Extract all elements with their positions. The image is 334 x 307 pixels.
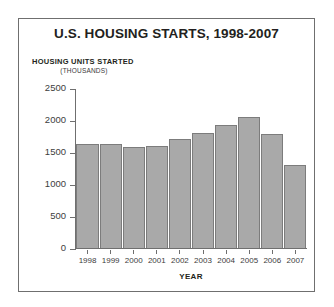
x-axis-tick-label: 1999 xyxy=(100,256,122,265)
x-axis-label: YEAR xyxy=(75,272,307,281)
x-axis-tick-label: 2000 xyxy=(123,256,145,265)
x-axis-tick-slot xyxy=(100,250,122,254)
x-axis-tick-label: 2004 xyxy=(215,256,237,265)
x-axis-tick-mark xyxy=(179,250,180,254)
bar-slot xyxy=(238,88,260,248)
bar-slot xyxy=(261,88,283,248)
y-axis-label-units: (THOUSANDS) xyxy=(32,67,136,74)
y-axis-tick-label: 2500 xyxy=(45,82,66,93)
y-axis-tick-label: 2000 xyxy=(45,114,66,125)
plot-area: 05001000150020002500 xyxy=(75,89,307,249)
bar-slot xyxy=(215,88,237,248)
bar-slot xyxy=(284,88,306,248)
x-axis-tick-label: 2006 xyxy=(261,256,283,265)
bar-slot xyxy=(100,88,122,248)
bar[interactable] xyxy=(284,165,306,248)
y-axis-tick-label: 1500 xyxy=(45,146,66,157)
x-axis-tick-mark xyxy=(295,250,296,254)
x-axis-tick-slot xyxy=(192,250,214,254)
bar-slot xyxy=(76,88,98,248)
x-axis-tick-labels: 1998199920002001200220032004200520062007 xyxy=(75,256,307,268)
x-axis-tick-slot xyxy=(238,250,260,254)
x-axis-tick-label: 2003 xyxy=(192,256,214,265)
bar[interactable] xyxy=(238,117,260,248)
bar-slot xyxy=(123,88,145,248)
page-top-margin xyxy=(0,0,334,8)
y-axis-tick-label: 1000 xyxy=(45,178,66,189)
x-axis-tick-label: 2007 xyxy=(284,256,306,265)
bar[interactable] xyxy=(169,139,191,248)
x-axis-tick-label: 2005 xyxy=(238,256,260,265)
x-axis-tick-mark xyxy=(226,250,227,254)
x-axis-tick-slot xyxy=(76,250,98,254)
y-axis-tick-label: 0 xyxy=(61,242,66,253)
x-axis-tick-slot xyxy=(261,250,283,254)
bar[interactable] xyxy=(100,144,122,248)
x-axis-tick-mark xyxy=(156,250,157,254)
bar-series xyxy=(76,88,307,248)
bar-slot xyxy=(169,88,191,248)
y-axis-label: HOUSING UNITS STARTED xyxy=(32,57,202,66)
x-axis-tick-mark xyxy=(133,250,134,254)
bar[interactable] xyxy=(261,134,283,248)
chart-figure: U.S. HOUSING STARTS, 1998-2007 HOUSING U… xyxy=(18,18,315,292)
x-axis-tick-slot xyxy=(284,250,306,254)
y-axis-label-block: HOUSING UNITS STARTED (THOUSANDS) xyxy=(32,57,202,74)
bar[interactable] xyxy=(123,147,145,248)
x-axis-line xyxy=(75,248,307,249)
x-axis-ticks xyxy=(76,250,307,254)
x-axis-tick-label: 1998 xyxy=(76,256,98,265)
chart-title: U.S. HOUSING STARTS, 1998-2007 xyxy=(19,26,314,41)
bar[interactable] xyxy=(146,146,168,248)
x-axis-tick-label: 2002 xyxy=(169,256,191,265)
x-axis-tick-slot xyxy=(146,250,168,254)
x-axis-tick-mark xyxy=(272,250,273,254)
bar-slot xyxy=(146,88,168,248)
x-axis-tick-mark xyxy=(87,250,88,254)
x-axis-tick-mark xyxy=(203,250,204,254)
bar[interactable] xyxy=(76,144,98,248)
x-axis-tick-label: 2001 xyxy=(146,256,168,265)
x-axis-tick-mark xyxy=(110,250,111,254)
bar[interactable] xyxy=(215,125,237,248)
x-axis-tick-slot xyxy=(169,250,191,254)
y-axis-tick-label: 500 xyxy=(50,210,66,221)
x-axis-tick-slot xyxy=(123,250,145,254)
x-axis-tick-slot xyxy=(215,250,237,254)
x-axis-tick-mark xyxy=(249,250,250,254)
bar-slot xyxy=(192,88,214,248)
bar[interactable] xyxy=(192,133,214,248)
